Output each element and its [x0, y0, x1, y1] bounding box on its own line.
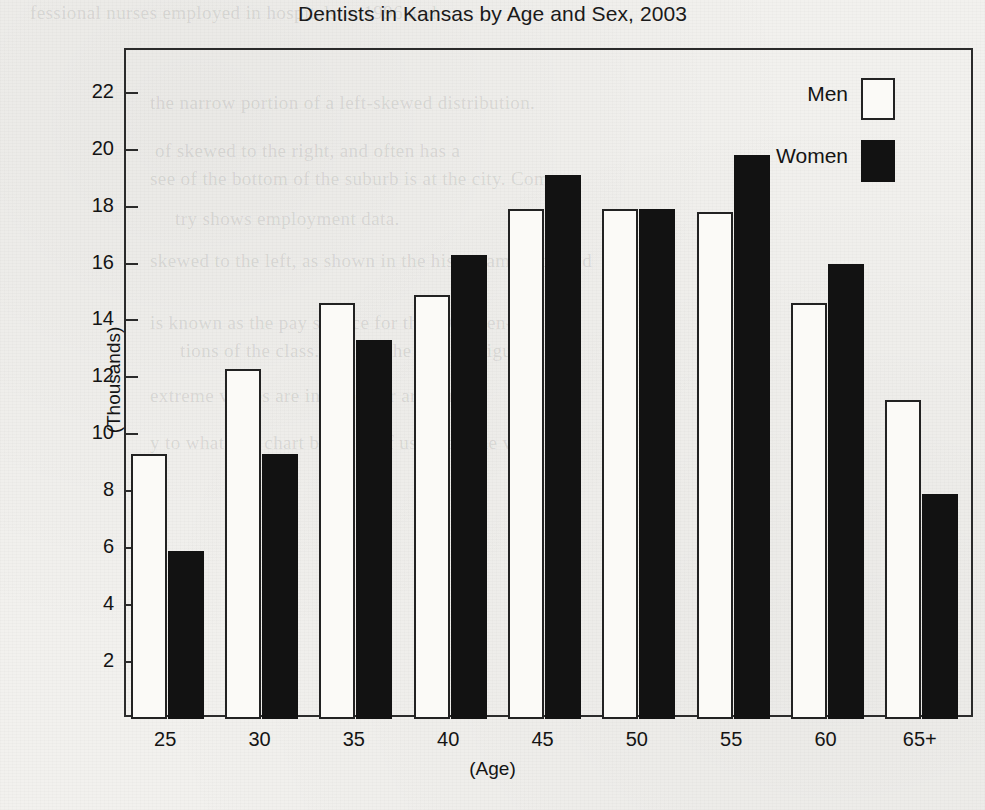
x-axis-title: (Age) [0, 758, 985, 780]
bar-women-40 [451, 255, 487, 719]
legend: MenWomen [724, 78, 914, 188]
bar-women-30 [262, 454, 298, 719]
x-axis-tick-label: 65+ [875, 728, 965, 751]
bar-men-35 [319, 303, 355, 719]
y-axis-tick-label: 22 [54, 80, 114, 103]
x-axis-tick-label: 45 [498, 728, 588, 751]
x-axis-tick-label: 40 [403, 728, 493, 751]
y-axis-tick [125, 92, 138, 94]
chart-title: Dentists in Kansas by Age and Sex, 2003 [0, 2, 985, 26]
y-axis-tick [125, 376, 138, 378]
bar-men-55 [697, 212, 733, 719]
x-axis-tick-label: 30 [215, 728, 305, 751]
x-axis-tick-label: 25 [120, 728, 210, 751]
legend-swatch-men [861, 78, 895, 120]
bar-men-60 [791, 303, 827, 719]
legend-item-men: Men [724, 78, 914, 124]
y-axis-tick [125, 149, 138, 151]
y-axis-tick-label: 6 [54, 535, 114, 558]
bar-women-25 [168, 551, 204, 719]
legend-item-women: Women [724, 140, 914, 186]
bar-women-60 [828, 264, 864, 719]
x-axis-tick-label: 60 [781, 728, 871, 751]
y-axis-tick [125, 206, 138, 208]
x-axis-tick-label: 50 [592, 728, 682, 751]
bar-women-45 [545, 175, 581, 719]
bar-men-40 [414, 295, 450, 719]
bar-women-55 [734, 155, 770, 719]
y-axis-title: (Thousands) [103, 327, 125, 434]
legend-swatch-women [861, 140, 895, 182]
y-axis-tick-label: 8 [54, 478, 114, 501]
y-axis-tick-label: 4 [54, 592, 114, 615]
y-axis-tick-label: 20 [54, 137, 114, 160]
bar-men-65plus [885, 400, 921, 719]
y-axis-tick [125, 319, 138, 321]
bar-women-35 [356, 340, 392, 719]
y-axis-tick-label: 18 [54, 194, 114, 217]
y-axis-tick [125, 263, 138, 265]
legend-label: Men [807, 82, 848, 106]
bar-men-50 [602, 209, 638, 719]
bar-men-25 [131, 454, 167, 719]
y-axis-tick-label: 16 [54, 251, 114, 274]
bar-women-50 [639, 209, 675, 719]
x-axis-tick-label: 55 [686, 728, 776, 751]
bar-women-65plus [922, 494, 958, 719]
bar-men-45 [508, 209, 544, 719]
bar-men-30 [225, 369, 261, 719]
y-axis-tick [125, 433, 138, 435]
legend-label: Women [776, 144, 848, 168]
y-axis-tick-label: 2 [54, 649, 114, 672]
x-axis-tick-label: 35 [309, 728, 399, 751]
